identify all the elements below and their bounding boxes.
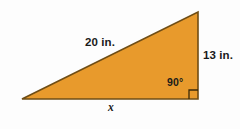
base-length-label: x (108, 102, 114, 114)
triangle-graphic (0, 0, 240, 129)
right-triangle-figure: 20 in. 13 in. 90° x (0, 0, 240, 129)
right-angle-degree-label: 90° (167, 77, 183, 88)
right-leg-length-label: 13 in. (203, 50, 233, 62)
hypotenuse-length-label: 20 in. (85, 37, 115, 49)
